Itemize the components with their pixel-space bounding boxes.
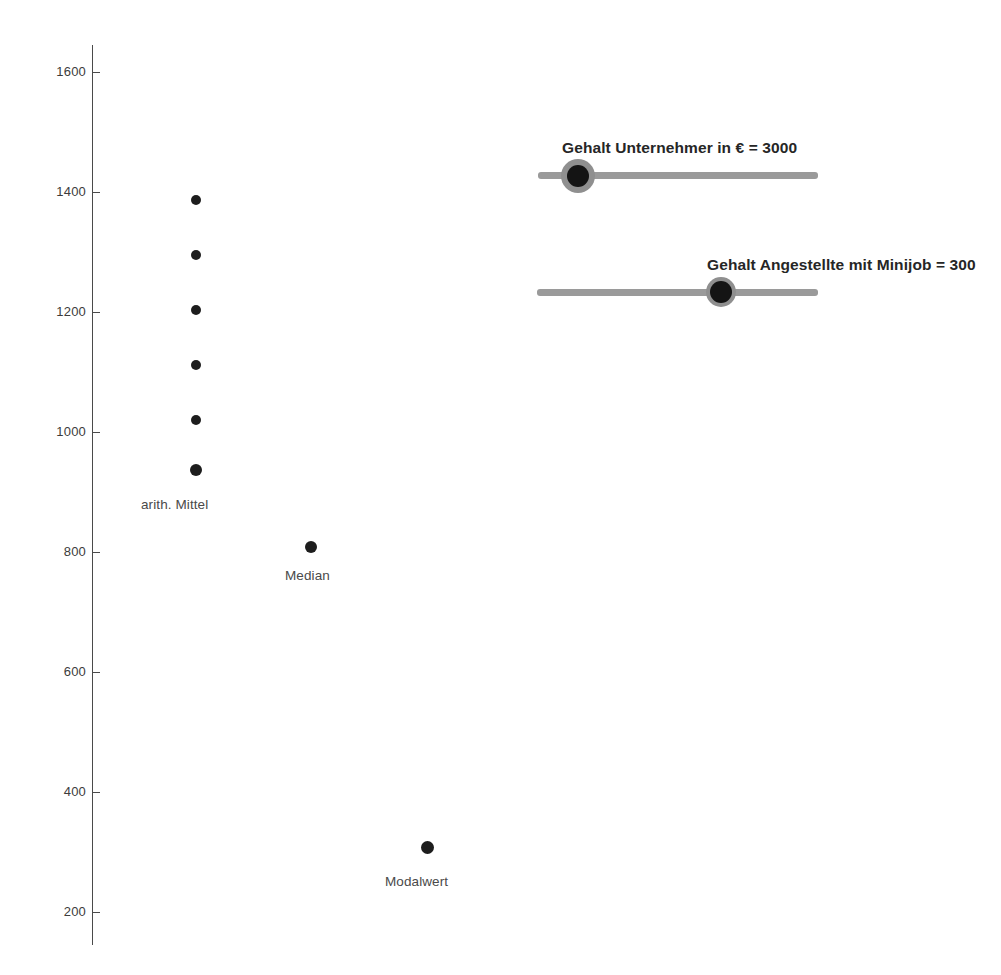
y-axis-tick-label: 200: [34, 904, 86, 920]
slider-gehalt-minijob-label: Gehalt Angestellte mit Minijob = 300: [707, 256, 976, 274]
data-point: [190, 464, 202, 476]
y-axis-tick-label-text: 1000: [38, 424, 86, 439]
y-axis-tick: [92, 432, 100, 433]
series-label-modalwert: Modalwert: [385, 874, 448, 889]
y-axis-tick-label: 1000: [34, 424, 86, 440]
y-axis-tick: [92, 192, 100, 193]
data-point: [191, 305, 201, 315]
y-axis-tick-label: 600: [34, 664, 86, 680]
y-axis-tick-label-text: 200: [38, 904, 86, 919]
scatter-plot: 1600 1400 1200 1000 800 600 400 200 arit…: [0, 0, 520, 975]
y-axis-tick-label-text: 1200: [38, 304, 86, 319]
slider-gehalt-minijob-handle[interactable]: [710, 281, 732, 303]
y-axis-tick-label: 1400: [34, 184, 86, 200]
y-axis-tick-label: 1200: [34, 304, 86, 320]
y-axis-tick: [92, 552, 100, 553]
y-axis-tick-label-text: 800: [38, 544, 86, 559]
slider-gehalt-unternehmer-handle[interactable]: [567, 165, 589, 187]
series-label-arith-mittel: arith. Mittel: [141, 497, 208, 512]
y-axis-tick: [92, 72, 100, 73]
y-axis-tick-label-text: 1400: [38, 184, 86, 199]
y-axis-tick-label: 800: [34, 544, 86, 560]
y-axis-tick-label-text: 1600: [38, 64, 86, 79]
y-axis-tick-label: 1600: [34, 64, 86, 80]
y-axis-tick: [92, 312, 100, 313]
series-label-median: Median: [285, 568, 330, 583]
y-axis-tick-label-text: 600: [38, 664, 86, 679]
data-point: [421, 841, 434, 854]
y-axis-tick: [92, 912, 100, 913]
slider-gehalt-minijob-track[interactable]: [537, 289, 818, 296]
slider-gehalt-unternehmer-label: Gehalt Unternehmer in € = 3000: [562, 139, 797, 157]
y-axis-tick-label-text: 400: [38, 784, 86, 799]
y-axis-tick: [92, 792, 100, 793]
data-point: [191, 415, 201, 425]
y-axis-tick: [92, 672, 100, 673]
data-point: [305, 541, 317, 553]
data-point: [191, 360, 201, 370]
data-point: [191, 250, 201, 260]
y-axis-line: [92, 45, 93, 945]
y-axis-tick-label: 400: [34, 784, 86, 800]
data-point: [191, 195, 201, 205]
